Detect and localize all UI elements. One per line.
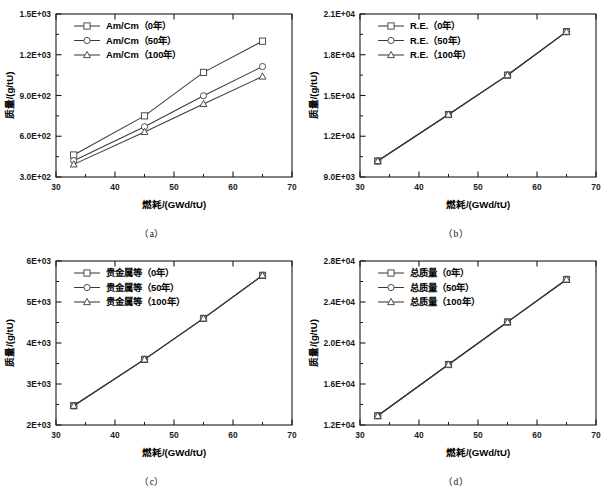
plot-b: 30405060709.0E+031.2E+041.5E+041.8E+042.…	[304, 0, 608, 225]
x-tick-label: 50	[473, 430, 483, 440]
y-tick-label: 2E+03	[27, 420, 52, 430]
y-axis-title: 质量/(g/tU)	[4, 319, 15, 367]
x-tick-label: 30	[355, 182, 365, 192]
y-tick-label: 9.0E+03	[324, 172, 356, 182]
legend-marker	[388, 23, 394, 29]
chart-panel-c: 30405060702E+033E+034E+035E+036E+03贵金属等（…	[0, 247, 304, 494]
legend-marker	[388, 37, 394, 43]
x-tick-label: 30	[51, 182, 61, 192]
y-axis-title: 质量/(g/tU)	[308, 319, 319, 367]
y-tick-label: 3E+03	[27, 379, 52, 389]
x-tick-label: 60	[532, 182, 542, 192]
legend-label: 贵金属等（100年）	[106, 296, 185, 307]
plot-c: 30405060702E+033E+034E+035E+036E+03贵金属等（…	[0, 247, 304, 473]
data-point	[200, 100, 207, 106]
legend-marker	[388, 284, 394, 290]
series-line	[74, 67, 263, 161]
legend-marker	[388, 270, 394, 276]
figure-panel-grid: 30405060703.0E+026.0E+029.0E+021.2E+031.…	[0, 0, 608, 495]
series-line	[74, 275, 263, 405]
series-line	[74, 275, 263, 405]
y-axis-title: 质量/(g/tU)	[4, 72, 15, 120]
y-tick-label: 2.8E+04	[324, 256, 356, 266]
panel-caption-d: （d）	[304, 474, 608, 488]
data-point	[200, 69, 206, 75]
x-tick-label: 40	[110, 430, 120, 440]
panel-caption-c: （c）	[0, 474, 304, 488]
x-tick-label: 50	[169, 430, 179, 440]
x-tick-label: 40	[414, 182, 424, 192]
x-tick-label: 60	[228, 430, 238, 440]
legend-label: 总质量（100年）	[410, 296, 480, 307]
panel-caption-a: （a）	[0, 226, 304, 240]
x-tick-label: 30	[51, 430, 61, 440]
y-tick-label: 2.0E+04	[324, 338, 356, 348]
plot-a: 30405060703.0E+026.0E+029.0E+021.2E+031.…	[0, 0, 304, 225]
chart-panel-b: 30405060709.0E+031.2E+041.5E+041.8E+042.…	[304, 0, 608, 247]
y-tick-label: 5E+03	[27, 297, 52, 307]
x-tick-label: 70	[287, 430, 297, 440]
legend-label: 贵金属等（0年）	[106, 267, 174, 278]
series-line	[378, 32, 567, 161]
data-point	[141, 113, 147, 119]
x-axis-title: 燃耗/(GWd/tU)	[446, 199, 510, 210]
series-line	[74, 76, 263, 164]
y-tick-label: 9.0E+02	[20, 91, 52, 101]
x-tick-label: 70	[591, 430, 601, 440]
legend-label: Am/Cm（50年）	[106, 35, 176, 46]
series-line	[378, 32, 567, 161]
legend-label: Am/Cm（0年）	[106, 20, 171, 31]
x-tick-label: 60	[228, 182, 238, 192]
series-line	[378, 32, 567, 161]
x-axis-title: 燃耗/(GWd/tU)	[446, 447, 510, 458]
legend-label: R.E.（100年）	[410, 49, 471, 60]
plot-d: 30405060701.2E+041.6E+042.0E+042.4E+042.…	[304, 247, 608, 473]
series-line	[74, 275, 263, 405]
x-tick-label: 40	[414, 430, 424, 440]
y-axis-title: 质量/(g/tU)	[308, 72, 319, 120]
panel-caption-b: （b）	[304, 226, 608, 240]
legend-label: Am/Cm（100年）	[106, 49, 181, 60]
data-point	[259, 73, 266, 79]
legend-marker	[84, 284, 90, 290]
legend-label: 总质量（0年）	[410, 267, 469, 278]
x-tick-label: 30	[355, 430, 365, 440]
y-tick-label: 1.5E+03	[20, 9, 52, 19]
legend-label: 贵金属等（50年）	[106, 282, 179, 293]
x-axis-title: 燃耗/(GWd/tU)	[142, 199, 206, 210]
legend-marker	[84, 23, 90, 29]
x-tick-label: 60	[532, 430, 542, 440]
x-axis-title: 燃耗/(GWd/tU)	[142, 447, 206, 458]
y-tick-label: 4E+03	[27, 338, 52, 348]
y-tick-label: 6.0E+02	[20, 131, 52, 141]
y-tick-label: 2.4E+04	[324, 297, 356, 307]
y-tick-label: 3.0E+02	[20, 172, 52, 182]
x-tick-label: 50	[169, 182, 179, 192]
y-tick-label: 1.2E+03	[20, 50, 52, 60]
x-tick-label: 70	[287, 182, 297, 192]
x-tick-label: 40	[110, 182, 120, 192]
y-tick-label: 1.8E+04	[324, 50, 356, 60]
y-tick-label: 2.1E+04	[324, 9, 356, 19]
legend-label: 总质量（50年）	[410, 282, 474, 293]
y-tick-label: 1.6E+04	[324, 379, 356, 389]
legend-marker	[84, 270, 90, 276]
legend-label: R.E.（50年）	[410, 35, 466, 46]
legend-label: R.E.（0年）	[410, 20, 460, 31]
chart-panel-a: 30405060703.0E+026.0E+029.0E+021.2E+031.…	[0, 0, 304, 247]
plot-frame	[360, 14, 596, 177]
y-tick-label: 1.5E+04	[324, 91, 356, 101]
y-tick-label: 1.2E+04	[324, 131, 356, 141]
x-tick-label: 50	[473, 182, 483, 192]
data-point	[259, 38, 265, 44]
legend-marker	[84, 37, 90, 43]
y-tick-label: 6E+03	[27, 256, 52, 266]
data-point	[200, 93, 206, 99]
data-point	[259, 63, 265, 69]
x-tick-label: 70	[591, 182, 601, 192]
chart-panel-d: 30405060701.2E+041.6E+042.0E+042.4E+042.…	[304, 247, 608, 494]
y-tick-label: 1.2E+04	[324, 420, 356, 430]
